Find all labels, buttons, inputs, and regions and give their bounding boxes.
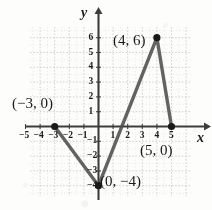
x-tick-label: −2 — [63, 131, 73, 141]
x-tick-label: −3 — [48, 131, 58, 141]
graph-canvas: −5−4−3−2−112345654321−1−2−3−4 (−3, 0)(4,… — [0, 0, 212, 210]
x-axis-label: x — [197, 131, 204, 145]
x-tick-label: 4 — [154, 131, 159, 141]
y-tick-label: −1 — [87, 136, 97, 146]
x-tick-label: −5 — [19, 131, 29, 141]
x-tick-label: 2 — [125, 131, 130, 141]
y-tick-label: −2 — [87, 151, 97, 161]
y-tick-label: 1 — [89, 107, 94, 117]
point-label-5-0: (5, 0) — [140, 143, 173, 158]
y-tick-label: 5 — [89, 48, 94, 58]
point-label-0-neg4: (0, −4) — [100, 174, 141, 189]
y-tick-label: −3 — [87, 166, 97, 176]
point-label-4-6: (4, 6) — [113, 33, 146, 48]
x-tick-label: −4 — [34, 131, 44, 141]
x-tick-label: 3 — [140, 131, 145, 141]
grid-lines — [30, 27, 191, 196]
y-tick-label: −4 — [87, 181, 97, 191]
x-tick-label: 5 — [169, 131, 174, 141]
point-label-neg3-0: (−3, 0) — [12, 96, 53, 111]
y-tick-label: 3 — [89, 77, 94, 87]
y-tick-label: 6 — [89, 33, 94, 43]
y-axis-label: y — [81, 6, 87, 20]
y-tick-label: 2 — [89, 92, 94, 102]
y-tick-label: 4 — [89, 62, 94, 72]
x-tick-label: 1 — [111, 131, 116, 141]
